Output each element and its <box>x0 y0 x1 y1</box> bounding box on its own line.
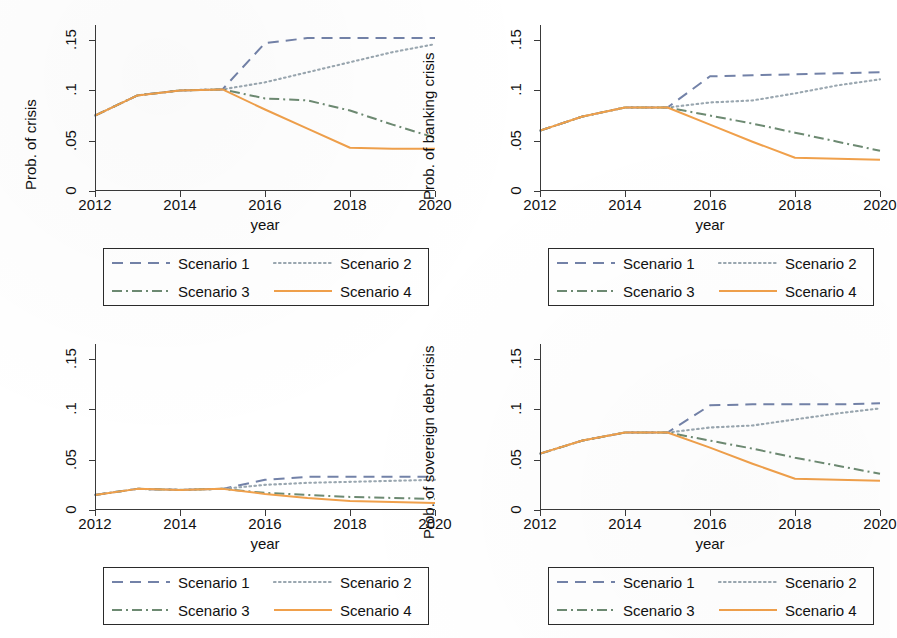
legend-swatch-icon <box>111 285 171 297</box>
y-axis-line-top-right <box>540 25 541 191</box>
legend-label: Scenario 4 <box>785 602 857 619</box>
legend-top-right: Scenario 1Scenario 2Scenario 3Scenario 4 <box>548 248 874 306</box>
legend-item-scenario-3[interactable]: Scenario 3 <box>549 283 711 300</box>
x-axis-title-top-left: year <box>95 216 435 233</box>
legend-item-scenario-3[interactable]: Scenario 3 <box>104 283 266 300</box>
legend-swatch-icon <box>718 604 778 616</box>
series-line-scenario-1 <box>95 38 435 115</box>
series-line-scenario-4 <box>95 489 435 503</box>
y-tick-label: .1 <box>55 81 85 98</box>
y-tick-mark <box>534 359 540 360</box>
x-tick-label: 2014 <box>163 196 196 213</box>
series-line-scenario-2 <box>95 480 435 495</box>
x-tick-label: 2014 <box>608 515 641 532</box>
y-tick-mark <box>89 460 95 461</box>
legend-swatch-icon <box>556 604 616 616</box>
legend-item-scenario-2[interactable]: Scenario 2 <box>711 255 873 272</box>
legend-swatch-icon <box>273 604 333 616</box>
y-tick-label: .1 <box>500 400 530 417</box>
y-tick-label: .15 <box>55 31 85 48</box>
panel-bottom-left: 0.05.1.1520122014201620182020 year Scena… <box>0 319 445 638</box>
legend-swatch-icon <box>556 576 616 588</box>
legend-item-scenario-4[interactable]: Scenario 4 <box>711 602 873 619</box>
y-tick-label: .15 <box>500 350 530 367</box>
y-tick-mark <box>89 90 95 91</box>
y-tick-mark <box>89 359 95 360</box>
y-tick-mark <box>534 40 540 41</box>
y-tick-mark <box>534 460 540 461</box>
legend-label: Scenario 4 <box>785 283 857 300</box>
plot-area-top-left <box>95 25 435 191</box>
y-tick-label: .1 <box>55 400 85 417</box>
legend-item-scenario-4[interactable]: Scenario 4 <box>266 283 428 300</box>
x-tick-label: 2018 <box>778 196 811 213</box>
legend-label: Scenario 2 <box>340 574 412 591</box>
x-axis-title-bottom-left: year <box>95 535 435 552</box>
legend-label: Scenario 2 <box>340 255 412 272</box>
x-tick-label: 2018 <box>333 196 366 213</box>
y-tick-mark <box>534 141 540 142</box>
x-tick-label: 2020 <box>863 196 896 213</box>
legend-swatch-icon <box>111 257 171 269</box>
legend-swatch-icon <box>111 604 171 616</box>
legend-item-scenario-1[interactable]: Scenario 1 <box>549 255 711 272</box>
legend-label: Scenario 3 <box>178 602 250 619</box>
legend-item-scenario-4[interactable]: Scenario 4 <box>711 283 873 300</box>
panel-top-right-y-axis-title: Prob. of banking crisis <box>420 52 437 200</box>
series-canvas-top-right <box>540 25 880 191</box>
y-tick-mark <box>534 409 540 410</box>
y-tick-label: .05 <box>500 132 530 149</box>
panel-top-right: Prob. of banking crisis 0.05.1.152012201… <box>445 0 890 319</box>
legend-item-scenario-1[interactable]: Scenario 1 <box>104 574 266 591</box>
x-tick-label: 2016 <box>248 196 281 213</box>
legend-bottom-right: Scenario 1Scenario 2Scenario 3Scenario 4 <box>548 567 874 625</box>
x-tick-label: 2018 <box>778 515 811 532</box>
legend-item-scenario-1[interactable]: Scenario 1 <box>104 255 266 272</box>
legend-item-scenario-2[interactable]: Scenario 2 <box>266 574 428 591</box>
series-line-scenario-2 <box>95 44 435 115</box>
legend-item-scenario-3[interactable]: Scenario 3 <box>549 602 711 619</box>
y-tick-mark <box>89 409 95 410</box>
legend-label: Scenario 3 <box>623 283 695 300</box>
y-tick-mark <box>89 141 95 142</box>
legend-label: Scenario 4 <box>340 283 412 300</box>
y-axis-line-bottom-left <box>95 344 96 510</box>
x-tick-label: 2012 <box>78 515 111 532</box>
x-tick-label: 2016 <box>248 515 281 532</box>
x-tick-label: 2012 <box>523 196 556 213</box>
legend-swatch-icon <box>273 576 333 588</box>
panel-bottom-right-y-axis-title: Prob. of sovereign debt crisis <box>420 346 437 539</box>
legend-item-scenario-1[interactable]: Scenario 1 <box>549 574 711 591</box>
legend-label: Scenario 1 <box>623 255 695 272</box>
plot-area-bottom-right <box>540 344 880 510</box>
series-line-scenario-1 <box>540 72 880 130</box>
y-tick-label: .05 <box>55 132 85 149</box>
x-tick-label: 2012 <box>523 515 556 532</box>
x-axis-title-top-right: year <box>540 216 880 233</box>
legend-top-left: Scenario 1Scenario 2Scenario 3Scenario 4 <box>103 248 429 306</box>
legend-swatch-icon <box>718 257 778 269</box>
legend-item-scenario-2[interactable]: Scenario 2 <box>266 255 428 272</box>
series-line-scenario-3 <box>95 89 435 137</box>
panel-bottom-right: Prob. of sovereign debt crisis 0.05.1.15… <box>445 319 890 638</box>
y-tick-label: .15 <box>500 31 530 48</box>
series-line-scenario-4 <box>540 108 880 160</box>
y-tick-label: .1 <box>500 81 530 98</box>
legend-item-scenario-4[interactable]: Scenario 4 <box>266 602 428 619</box>
legend-item-scenario-3[interactable]: Scenario 3 <box>104 602 266 619</box>
x-axis-title-bottom-right: year <box>540 535 880 552</box>
series-line-scenario-1 <box>540 403 880 453</box>
legend-label: Scenario 1 <box>623 574 695 591</box>
legend-swatch-icon <box>273 257 333 269</box>
series-canvas-top-left <box>95 25 435 191</box>
legend-item-scenario-2[interactable]: Scenario 2 <box>711 574 873 591</box>
y-tick-label: .05 <box>500 451 530 468</box>
y-axis-line-bottom-right <box>540 344 541 510</box>
legend-label: Scenario 2 <box>785 574 857 591</box>
series-line-scenario-2 <box>540 79 880 130</box>
legend-label: Scenario 4 <box>340 602 412 619</box>
series-line-scenario-4 <box>540 433 880 481</box>
x-tick-label: 2016 <box>693 515 726 532</box>
legend-swatch-icon <box>273 285 333 297</box>
